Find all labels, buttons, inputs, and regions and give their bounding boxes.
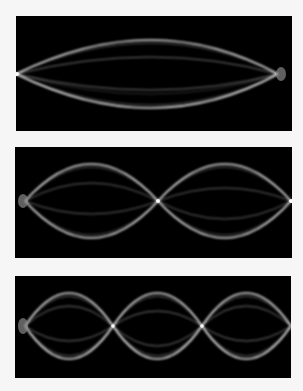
string-mode-1-image (16, 16, 292, 131)
string-mode-2-image (15, 147, 292, 258)
standing-wave-panel-mode-2 (15, 147, 292, 258)
string-mode-3-image (15, 276, 291, 378)
standing-wave-panel-mode-3 (15, 276, 291, 378)
standing-wave-panel-mode-1 (16, 16, 292, 131)
